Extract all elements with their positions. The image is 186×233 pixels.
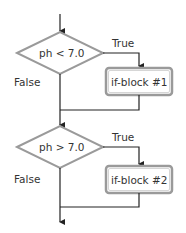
decision-2-label: ph > 7.0 — [39, 142, 85, 153]
if-block-2-label: if-block #2 — [111, 175, 168, 186]
merge-2 — [60, 193, 139, 207]
decision-2-true-label: True — [112, 132, 134, 143]
true-branch-1 — [103, 53, 139, 66]
decision-1-false-label: False — [14, 77, 40, 88]
merge-1 — [60, 95, 139, 110]
true-branch-2 — [103, 147, 139, 164]
decision-1-label: ph < 7.0 — [39, 48, 85, 59]
flowchart-canvas — [0, 0, 186, 233]
decision-2-false-label: False — [14, 174, 40, 185]
decision-1-true-label: True — [112, 38, 134, 49]
if-block-1-label: if-block #1 — [111, 77, 168, 88]
